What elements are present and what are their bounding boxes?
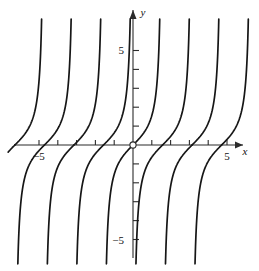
y-tick-label-neg5: −5 <box>112 234 124 246</box>
x-axis-label: x <box>242 145 248 157</box>
x-tick-label-pos5: 5 <box>224 150 230 162</box>
y-tick-label-pos5: 5 <box>119 44 125 56</box>
y-axis-arrowhead <box>130 10 137 19</box>
curve-branch <box>136 145 163 264</box>
origin-marker <box>130 142 136 148</box>
curve-branch <box>44 19 71 145</box>
plot-figure: x y −5 5 5 −5 <box>0 0 259 271</box>
curve-branch <box>195 145 222 264</box>
y-axis-label: y <box>140 6 146 18</box>
curve-branch <box>163 19 190 145</box>
curve-branch <box>8 145 15 152</box>
x-tick-label-neg5: −5 <box>33 150 45 162</box>
curve-family <box>8 19 248 264</box>
curve-branch <box>77 145 104 264</box>
plot-canvas: x y −5 5 5 −5 <box>0 0 259 271</box>
curve-branch <box>47 145 74 264</box>
curve-branch <box>192 19 219 145</box>
curve-branch <box>222 19 249 145</box>
curve-branch <box>18 145 45 264</box>
curve-branch <box>74 19 101 145</box>
curve-branch <box>15 19 42 145</box>
curve-branch <box>103 19 130 145</box>
curve-branch <box>166 145 193 264</box>
